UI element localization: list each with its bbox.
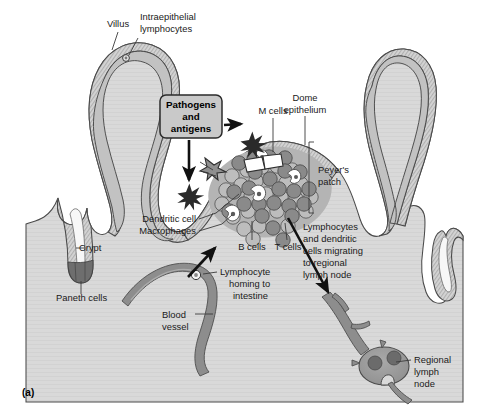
lymph-node-follicle	[387, 351, 401, 365]
label-peyers-patch-line1: Peyer's	[318, 164, 349, 175]
t-cell	[287, 184, 301, 198]
label-migrating-line2: and dendritic	[303, 233, 357, 244]
dendritic-cell-nucleus	[294, 175, 298, 179]
t-cell	[272, 182, 286, 196]
lymph-node-follicle	[368, 356, 382, 370]
label-dendritic-cell: Dendritic cell	[142, 213, 196, 224]
t-cell	[232, 156, 246, 170]
label-intraepithelial-lymphocytes-line1: Intraepithelial	[140, 11, 196, 22]
label-migrating-line3: cells migrating	[303, 245, 363, 256]
arrow-to-m-cells	[224, 124, 241, 125]
label-paneth-cells: Paneth cells	[56, 292, 107, 303]
label-b-cells: B cells	[238, 241, 266, 252]
homing-lymphocyte-nucleus	[194, 273, 198, 277]
pathogens-and-antigens-callout[interactable]: Pathogens and antigens	[160, 95, 222, 138]
label-t-cells: T cells	[275, 241, 302, 252]
panel-label: (a)	[22, 387, 34, 398]
label-blood-vessel-line2: vessel	[162, 321, 189, 332]
label-regional-lymph-node-line3: node	[414, 378, 435, 389]
label-peyers-patch-line2: patch	[318, 176, 341, 187]
label-lymphocyte-homing-line3: intestine	[233, 290, 268, 301]
label-lymphocyte-homing-line1: Lymphocyte	[220, 266, 270, 277]
label-dome-epithelium-line1: Dome	[292, 92, 317, 103]
label-villus: Villus	[107, 18, 130, 29]
intraepithelial-lymphocyte	[123, 55, 130, 62]
callout-line-2: and	[182, 111, 199, 122]
label-dome-epithelium-line2: epithelium	[284, 104, 327, 115]
callout-line-3: antigens	[171, 123, 212, 134]
label-macrophages: Macrophages	[139, 225, 196, 236]
label-migrating-line1: Lymphocytes	[303, 221, 358, 232]
t-cell	[266, 221, 280, 235]
label-lymphocyte-homing-line2: homing to	[229, 278, 270, 289]
dendritic-cell-nucleus	[257, 192, 261, 196]
label-regional-lymph-node-line1: Regional	[414, 354, 451, 365]
label-migrating-line5: lymph node	[303, 269, 351, 280]
label-intraepithelial-lymphocytes-line2: lymphocytes	[140, 23, 192, 34]
figure-container: Pathogens and antigens Villus Intraepith…	[0, 0, 486, 418]
intestinal-immune-system-diagram: Pathogens and antigens Villus Intraepith…	[0, 0, 486, 418]
m-cell	[263, 154, 283, 169]
callout-line-1: Pathogens	[166, 99, 217, 110]
t-cell	[267, 196, 281, 210]
label-migrating-line4: to regional	[303, 257, 347, 268]
t-cell	[255, 209, 269, 223]
t-cell	[285, 209, 299, 223]
label-crypt: Crypt	[79, 242, 102, 253]
label-blood-vessel-line1: Blood	[162, 309, 186, 320]
label-regional-lymph-node-line2: lymph	[414, 366, 439, 377]
m-cell	[244, 157, 265, 172]
t-cell	[227, 185, 241, 199]
